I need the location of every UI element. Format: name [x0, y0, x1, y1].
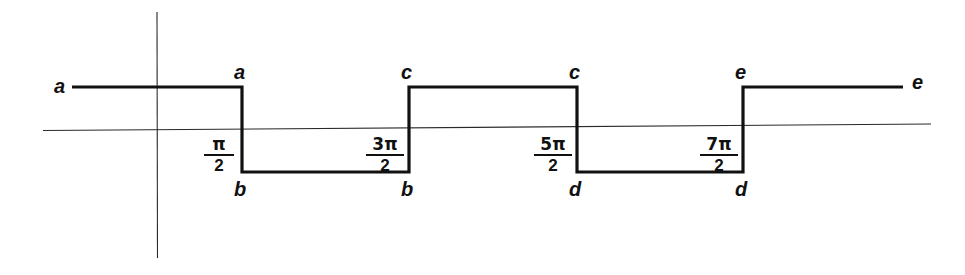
x-axis-line [43, 124, 931, 131]
label-c-right: c [569, 62, 580, 82]
tick-label-3pi-over-2-numerator: 3π [366, 136, 404, 156]
tick-label-5pi-over-2-numerator: 5π [534, 136, 572, 156]
label-e-right: e [912, 72, 923, 92]
label-d-left: d [569, 179, 581, 199]
tick-label-5pi-over-2: 5π 2 [534, 136, 572, 174]
label-e-left: e [735, 62, 746, 82]
figure-canvas [0, 0, 965, 275]
label-b-right: b [401, 179, 413, 199]
square-wave-figure: a a b b c c d d e e π 2 3π 2 5π 2 7π 2 [0, 0, 965, 275]
tick-label-7pi-over-2-numerator: 7π [700, 136, 738, 156]
label-a-left: a [54, 76, 65, 96]
tick-label-pi-over-2: π 2 [204, 136, 234, 174]
label-b-left: b [234, 179, 246, 199]
label-d-right: d [735, 179, 747, 199]
tick-label-5pi-over-2-denominator: 2 [534, 156, 572, 174]
tick-label-7pi-over-2: 7π 2 [700, 136, 738, 174]
tick-label-7pi-over-2-denominator: 2 [700, 156, 738, 174]
tick-label-pi-over-2-numerator: π [204, 136, 234, 156]
tick-label-3pi-over-2-denominator: 2 [366, 156, 404, 174]
tick-label-3pi-over-2: 3π 2 [366, 136, 404, 174]
label-c-left: c [401, 62, 412, 82]
label-a-right: a [234, 62, 245, 82]
tick-label-pi-over-2-denominator: 2 [204, 156, 234, 174]
y-axis-line [157, 12, 158, 258]
